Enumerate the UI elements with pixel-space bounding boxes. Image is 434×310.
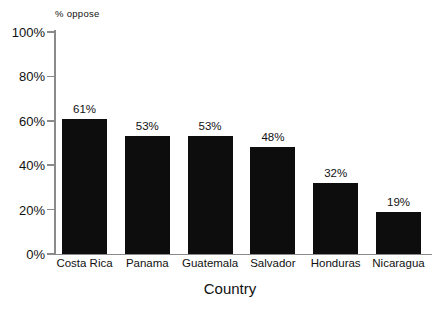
y-axis-line xyxy=(54,30,56,255)
y-axis-tick-label: 40% xyxy=(0,158,45,173)
bar-value-label: 53% xyxy=(199,120,222,132)
y-axis-tick xyxy=(47,120,54,122)
y-axis-tick-label: 20% xyxy=(0,202,45,217)
bar-value-label: 61% xyxy=(73,103,96,115)
bar-value-label: 32% xyxy=(324,167,347,179)
bar-value-label: 53% xyxy=(136,120,159,132)
y-axis-tick xyxy=(47,76,54,78)
bar xyxy=(376,212,421,254)
y-axis-tick xyxy=(47,209,54,211)
x-axis-title: Country xyxy=(0,280,434,297)
y-axis-title: % oppose xyxy=(55,8,100,19)
y-axis-tick-label: 80% xyxy=(0,69,45,84)
y-axis-tick xyxy=(47,253,54,255)
bar xyxy=(313,183,358,254)
y-axis-tick-label: 100% xyxy=(0,25,45,40)
y-axis-tick xyxy=(47,31,54,33)
bar-chart: % oppose 100%80%60%40%20%0% 61%Costa Ric… xyxy=(0,0,434,310)
x-axis-category-label: Salvador xyxy=(250,257,295,269)
bar xyxy=(250,147,295,254)
y-axis-tick xyxy=(47,164,54,166)
bar-value-label: 48% xyxy=(261,131,284,143)
bar xyxy=(188,136,233,254)
bar-value-label: 19% xyxy=(387,196,410,208)
x-axis-title-text: Country xyxy=(204,280,257,297)
x-axis-category-label: Nicaragua xyxy=(372,257,424,269)
y-axis-tick-label: 60% xyxy=(0,113,45,128)
y-axis-tick-label: 0% xyxy=(0,247,45,262)
x-axis-category-label: Panama xyxy=(126,257,169,269)
x-axis-category-label: Costa Rica xyxy=(56,257,112,269)
bar xyxy=(62,119,107,254)
x-axis-category-label: Honduras xyxy=(311,257,361,269)
bar xyxy=(125,136,170,254)
x-axis-category-label: Guatemala xyxy=(182,257,238,269)
